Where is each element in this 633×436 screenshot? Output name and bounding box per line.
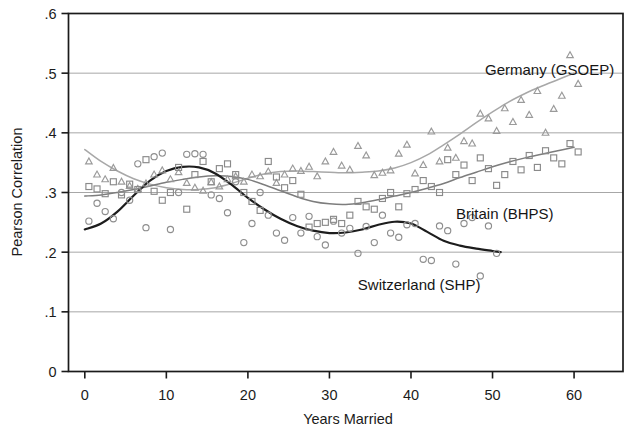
x-tick-label: 50: [484, 387, 500, 403]
y-tick-label: .1: [44, 304, 56, 320]
y-tick-label: .2: [44, 245, 56, 261]
y-tick-label: .5: [44, 66, 56, 82]
series-label-1: Britain (BHPS): [456, 205, 554, 222]
y-tick-label: 0: [48, 364, 56, 380]
x-tick-label: 0: [81, 387, 89, 403]
x-tick-label: 40: [403, 387, 419, 403]
y-tick-label: .4: [44, 125, 56, 141]
x-tick-label: 30: [321, 387, 337, 403]
y-axis-title: Pearson Correlation: [9, 128, 25, 257]
x-tick-label: 60: [566, 387, 582, 403]
x-tick-label: 10: [158, 387, 174, 403]
y-tick-label: .3: [44, 185, 56, 201]
y-tick-label: .6: [44, 6, 56, 22]
series-label-0: Germany (GSOEP): [485, 61, 614, 78]
series-label-2: Switzerland (SHP): [358, 276, 481, 293]
chart-canvas: 01020304050600.1.2.3.4.5.6 Germany (GSOE…: [0, 0, 633, 436]
pearson-correlation-chart: 01020304050600.1.2.3.4.5.6 Germany (GSOE…: [0, 0, 633, 436]
x-axis-title: Years Married: [303, 411, 393, 427]
x-tick-label: 20: [240, 387, 256, 403]
